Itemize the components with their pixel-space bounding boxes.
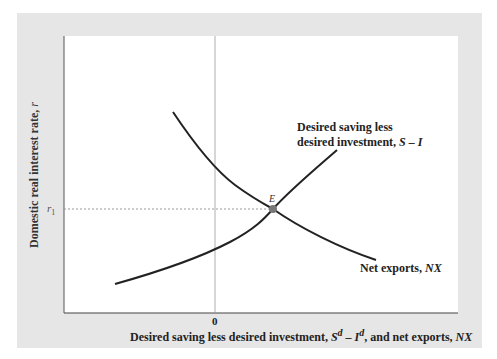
y-tick-r1: r1	[47, 202, 55, 217]
equilibrium-label: E	[269, 193, 275, 204]
net-exports-label: Net exports, NX	[360, 261, 442, 276]
x-label-post: , and net exports,	[364, 330, 455, 344]
x-label-nx: NX	[456, 330, 473, 344]
equilibrium-point	[269, 205, 277, 213]
si-label-line2: desired investment, S – I	[297, 135, 422, 150]
r1-sub: 1	[51, 208, 55, 217]
nx-label-text: Net exports,	[360, 261, 425, 275]
si-label-variable: S – I	[399, 135, 422, 149]
y-axis-label: Domestic real interest rate, r	[27, 102, 42, 248]
si-label-line2-text: desired investment,	[297, 135, 399, 149]
x-label-text: Desired saving less desired investment,	[130, 330, 331, 344]
x-axis-label: Desired saving less desired investment, …	[130, 327, 472, 345]
x-label-dash: –	[343, 330, 355, 344]
x-tick-zero: 0	[212, 315, 218, 327]
nx-label-variable: NX	[425, 261, 442, 275]
si-label-line1: Desired saving less	[297, 120, 422, 135]
chart-svg	[0, 0, 497, 359]
x-label-s: S	[331, 330, 338, 344]
y-axis-label-text: Domestic real interest rate,	[27, 107, 41, 248]
y-axis-variable: r	[27, 102, 41, 107]
saving-investment-label: Desired saving less desired investment, …	[297, 120, 422, 150]
saving-investment-curve	[115, 150, 337, 284]
